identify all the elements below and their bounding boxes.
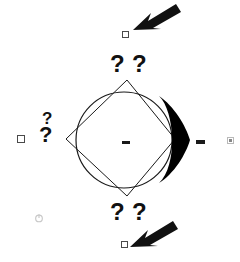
diamond-outline [66,80,175,196]
center-dash [122,141,130,144]
black-arrowhead-wedge [159,96,190,183]
handle-bottom[interactable] [121,241,128,248]
question-mark-left-lower: ? [39,124,52,146]
inscribed-circle [76,92,172,188]
cursor-arrow-top-right[interactable] [131,2,183,38]
handle-left[interactable] [17,135,25,143]
question-mark-bottom-left: ? [110,200,125,224]
drawing-canvas: ? ? ? ? ? ? [0,0,240,262]
right-dash [196,140,205,144]
cursor-arrow-icon [133,4,181,30]
question-mark-top-left: ? [110,52,125,76]
power-icon [34,213,44,223]
marker-right[interactable] [227,137,234,144]
question-mark-bottom-right: ? [132,200,147,224]
handle-top[interactable] [122,31,129,38]
question-mark-top-right: ? [132,52,147,76]
